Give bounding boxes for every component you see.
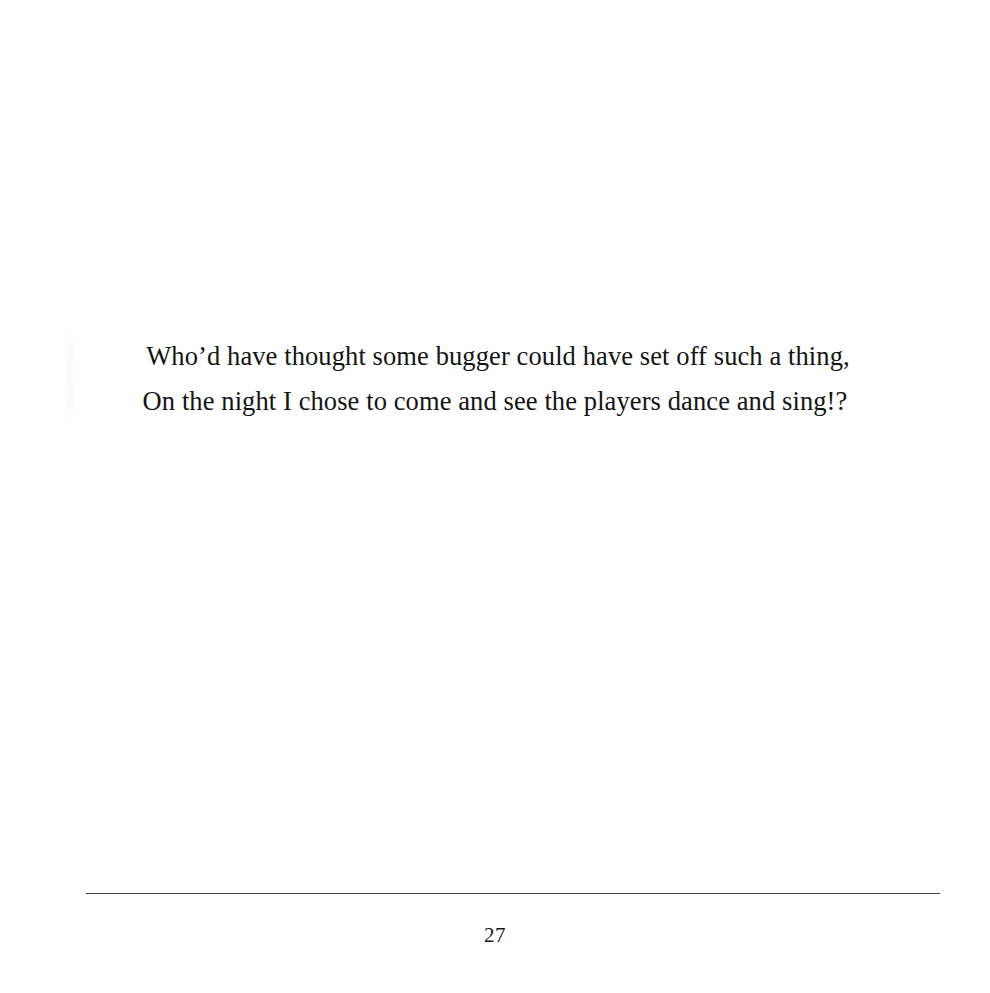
verse-line: Who’d have thought some bugger could hav…	[0, 334, 990, 379]
book-page: Who’d have thought some bugger could hav…	[0, 0, 990, 993]
page-number: 27	[0, 922, 990, 948]
verse-line: On the night I chose to come and see the…	[0, 379, 990, 424]
footer-rule	[86, 893, 940, 894]
verse-block: Who’d have thought some bugger could hav…	[0, 334, 990, 424]
